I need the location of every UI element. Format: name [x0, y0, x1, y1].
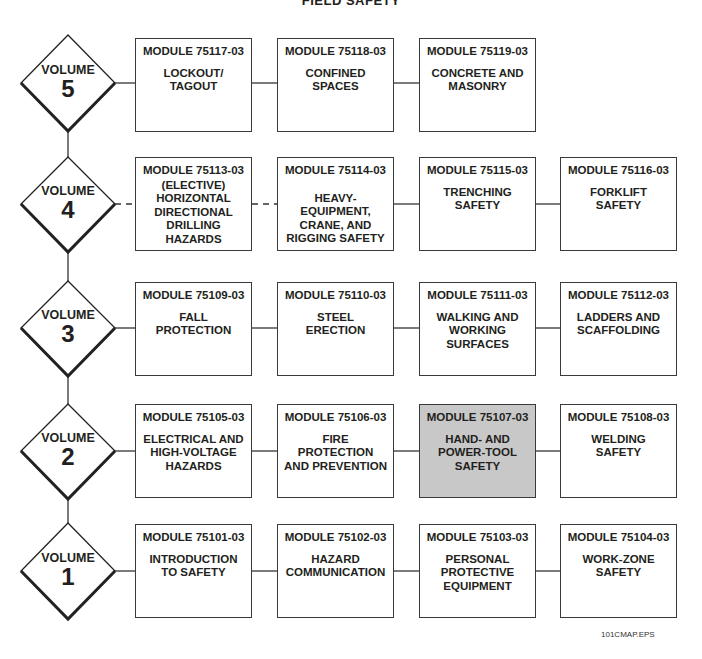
module-box-75117: MODULE 75117-03 LOCKOUT/ TAGOUT — [135, 38, 252, 132]
module-name: FIRE PROTECTION AND PREVENTION — [278, 433, 393, 474]
module-code: MODULE 75101-03 — [136, 531, 251, 545]
module-code: MODULE 75106-03 — [278, 411, 393, 425]
volume-number: 2 — [18, 445, 118, 469]
volume-4-node: VOLUME 4 — [18, 184, 118, 222]
module-name: FALL PROTECTION — [136, 311, 251, 338]
module-box-75119: MODULE 75119-03 CONCRETE AND MASONRY — [419, 38, 536, 132]
module-name: ELECTRICAL AND HIGH-VOLTAGE HAZARDS — [136, 433, 251, 474]
module-name: HEAVY- EQUIPMENT, CRANE, AND RIGGING SAF… — [278, 192, 393, 246]
module-name: LOCKOUT/ TAGOUT — [136, 67, 251, 94]
module-box-75103: MODULE 75103-03 PERSONAL PROTECTIVE EQUI… — [419, 524, 536, 618]
module-name: INTRODUCTION TO SAFETY — [136, 553, 251, 580]
module-box-75101: MODULE 75101-03 INTRODUCTION TO SAFETY — [135, 524, 252, 618]
module-code: MODULE 75103-03 — [420, 531, 535, 545]
module-code: MODULE 75104-03 — [561, 531, 676, 545]
module-box-75111: MODULE 75111-03 WALKING AND WORKING SURF… — [419, 282, 536, 376]
module-box-75113-elective: MODULE 75113-03 (ELECTIVE) HORIZONTAL DI… — [135, 157, 252, 251]
module-box-75102: MODULE 75102-03 HAZARD COMMUNICATION — [277, 524, 394, 618]
volume-1-node: VOLUME 1 — [18, 551, 118, 589]
module-name: LADDERS AND SCAFFOLDING — [561, 311, 676, 338]
module-code: MODULE 75110-03 — [278, 289, 393, 303]
module-name: CONFINED SPACES — [278, 67, 393, 94]
module-code: MODULE 75114-03 — [278, 164, 393, 178]
module-name: WORK-ZONE SAFETY — [561, 553, 676, 580]
module-code: MODULE 75107-03 — [420, 411, 535, 425]
module-code: MODULE 75118-03 — [278, 45, 393, 59]
volume-3-node: VOLUME 3 — [18, 308, 118, 346]
volume-number: 4 — [18, 198, 118, 222]
module-box-75118: MODULE 75118-03 CONFINED SPACES — [277, 38, 394, 132]
module-name: PERSONAL PROTECTIVE EQUIPMENT — [420, 553, 535, 594]
module-code: MODULE 75111-03 — [420, 289, 535, 303]
module-box-75107-highlighted: MODULE 75107-03 HAND- AND POWER-TOOL SAF… — [419, 404, 536, 498]
volume-number: 1 — [18, 565, 118, 589]
module-box-75110: MODULE 75110-03 STEEL ERECTION — [277, 282, 394, 376]
module-box-75109: MODULE 75109-03 FALL PROTECTION — [135, 282, 252, 376]
module-name: STEEL ERECTION — [278, 311, 393, 338]
module-name: HAND- AND POWER-TOOL SAFETY — [420, 433, 535, 474]
module-code: MODULE 75105-03 — [136, 411, 251, 425]
module-name: WELDING SAFETY — [561, 433, 676, 460]
module-name: (ELECTIVE) HORIZONTAL DIRECTIONAL DRILLI… — [136, 179, 251, 247]
module-code: MODULE 75117-03 — [136, 45, 251, 59]
module-box-75105: MODULE 75105-03 ELECTRICAL AND HIGH-VOLT… — [135, 404, 252, 498]
module-box-75114: MODULE 75114-03 HEAVY- EQUIPMENT, CRANE,… — [277, 157, 394, 251]
module-code: MODULE 75115-03 — [420, 164, 535, 178]
module-name: TRENCHING SAFETY — [420, 186, 535, 213]
module-box-75106: MODULE 75106-03 FIRE PROTECTION AND PREV… — [277, 404, 394, 498]
figure-file-code: 101CMAP.EPS — [601, 630, 655, 639]
module-code: MODULE 75116-03 — [561, 164, 676, 178]
module-code: MODULE 75109-03 — [136, 289, 251, 303]
module-code: MODULE 75119-03 — [420, 45, 535, 59]
module-code: MODULE 75113-03 — [136, 164, 251, 178]
volume-2-node: VOLUME 2 — [18, 431, 118, 469]
module-box-75116: MODULE 75116-03 FORKLIFT SAFETY — [560, 157, 677, 251]
module-code: MODULE 75108-03 — [561, 411, 676, 425]
module-box-75104: MODULE 75104-03 WORK-ZONE SAFETY — [560, 524, 677, 618]
module-name: FORKLIFT SAFETY — [561, 186, 676, 213]
module-name: WALKING AND WORKING SURFACES — [420, 311, 535, 352]
module-code: MODULE 75112-03 — [561, 289, 676, 303]
module-name: HAZARD COMMUNICATION — [278, 553, 393, 580]
module-box-75115: MODULE 75115-03 TRENCHING SAFETY — [419, 157, 536, 251]
module-box-75112: MODULE 75112-03 LADDERS AND SCAFFOLDING — [560, 282, 677, 376]
volume-5-node: VOLUME 5 — [18, 63, 118, 101]
volume-number: 5 — [18, 77, 118, 101]
module-name: CONCRETE AND MASONRY — [420, 67, 535, 94]
module-code: MODULE 75102-03 — [278, 531, 393, 545]
volume-number: 3 — [18, 322, 118, 346]
module-box-75108: MODULE 75108-03 WELDING SAFETY — [560, 404, 677, 498]
